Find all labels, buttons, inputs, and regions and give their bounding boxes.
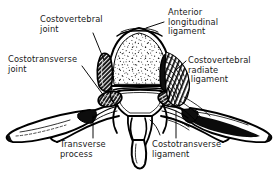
left-costovertebral-facet (97, 53, 112, 91)
label-transverse-process: Transverse process (60, 140, 106, 159)
label-costotransverse-joint: Costotransverse joint (8, 55, 77, 74)
label-anterior-longitudinal-ligament: Anterior longitudinal ligament (168, 8, 218, 37)
label-costotransverse-ligament: Costotransverse ligament (152, 140, 221, 159)
label-costovertebral-joint: Costovertebral joint (40, 15, 103, 34)
label-costovertebral-radiate-ligament: Costovertebral radiate ligament (188, 56, 251, 85)
